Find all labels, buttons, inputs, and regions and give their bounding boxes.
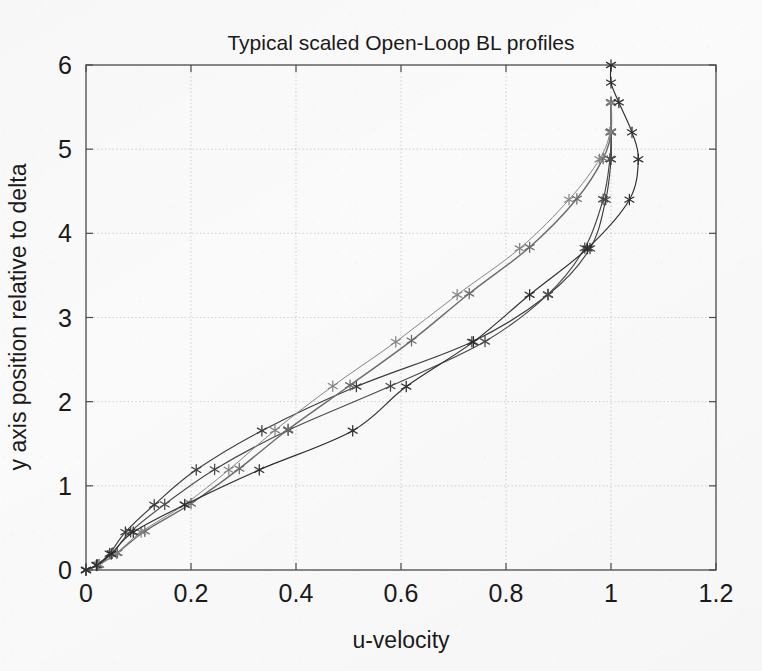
plot-area-border xyxy=(86,65,716,570)
data-point-marker xyxy=(453,290,462,300)
data-point-marker xyxy=(160,499,169,509)
data-point-marker xyxy=(257,426,266,436)
y-tick-label: 2 xyxy=(58,388,72,416)
data-point-marker xyxy=(606,98,615,108)
data-point-marker xyxy=(614,97,623,107)
y-axis-label: y axis position relative to delta xyxy=(5,163,31,470)
y-tick-label: 6 xyxy=(58,51,72,79)
series-profile-4 xyxy=(81,98,615,576)
data-point-marker xyxy=(480,336,489,346)
x-tick-label: 0.6 xyxy=(384,579,419,607)
data-point-marker xyxy=(391,337,400,347)
data-point-marker xyxy=(284,424,293,434)
x-tick-label: 1.2 xyxy=(699,579,734,607)
data-point-marker xyxy=(255,465,264,475)
data-point-marker xyxy=(348,426,357,436)
data-point-marker xyxy=(386,381,395,391)
data-point-marker xyxy=(634,154,643,164)
data-point-marker xyxy=(605,154,614,164)
gridlines xyxy=(86,65,716,570)
x-tick-label: 0.8 xyxy=(489,579,524,607)
figure-canvas: 00.20.40.60.811.2 0123456 Typical scaled… xyxy=(0,0,762,671)
x-tick-label: 0 xyxy=(79,579,93,607)
series-profile-1 xyxy=(81,98,615,576)
series-line xyxy=(86,65,638,570)
tick-marks xyxy=(86,65,716,570)
y-tick-label: 1 xyxy=(58,472,72,500)
y-tick-labels: 0123456 xyxy=(58,51,72,584)
series-profile-5-overshoot xyxy=(81,60,642,575)
data-point-marker xyxy=(235,463,244,473)
data-point-marker xyxy=(402,381,411,391)
data-series-layer xyxy=(81,60,642,575)
data-point-marker xyxy=(465,288,474,298)
chart-title: Typical scaled Open-Loop BL profiles xyxy=(227,31,574,54)
data-point-marker xyxy=(606,77,615,87)
data-point-marker xyxy=(525,290,534,300)
x-tick-label: 0.2 xyxy=(174,579,209,607)
data-point-marker xyxy=(627,127,636,137)
data-point-marker xyxy=(407,335,416,345)
series-profile-2 xyxy=(81,97,615,575)
y-tick-label: 3 xyxy=(58,304,72,332)
y-tick-label: 5 xyxy=(58,135,72,163)
data-point-marker xyxy=(270,425,279,435)
x-tick-label: 0.4 xyxy=(279,579,314,607)
data-point-marker xyxy=(625,194,634,204)
x-tick-label: 1 xyxy=(604,579,618,607)
data-point-marker xyxy=(210,464,219,474)
data-point-marker xyxy=(150,500,159,510)
data-point-marker xyxy=(192,465,201,475)
y-tick-label: 0 xyxy=(58,556,72,584)
data-point-marker xyxy=(328,381,337,391)
x-axis-label: u-velocity xyxy=(352,627,450,653)
x-tick-labels: 00.20.40.60.811.2 xyxy=(79,579,733,607)
open-loop-bl-profiles-chart: 00.20.40.60.811.2 0123456 Typical scaled… xyxy=(0,0,762,671)
series-profile-3 xyxy=(81,97,615,575)
y-tick-label: 4 xyxy=(58,219,72,247)
